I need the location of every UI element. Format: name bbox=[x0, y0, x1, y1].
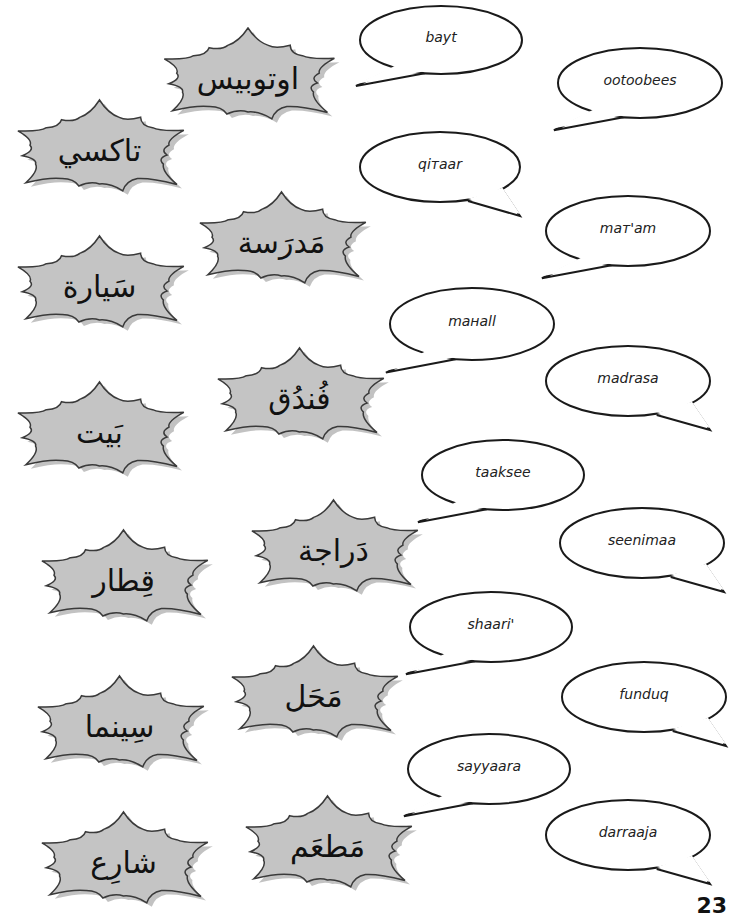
arabic-word: سَيارة bbox=[2, 236, 197, 336]
arabic-word-burst-madrasa: مَدرَسة bbox=[184, 192, 379, 292]
transliteration-text: sayyaara bbox=[404, 730, 574, 802]
speech-bubble-qitaar: qiтaar bbox=[356, 128, 524, 226]
transliteration-text: taaksee bbox=[418, 436, 588, 508]
arabic-word: مَحَل bbox=[216, 646, 411, 746]
arabic-word-burst-mataam: مَطعَم bbox=[230, 796, 425, 896]
speech-bubble-funduq: funduq bbox=[558, 658, 730, 756]
transliteration-text: bayt bbox=[356, 2, 526, 72]
transliteration-text: ootoobees bbox=[554, 44, 726, 116]
arabic-word: دَراجة bbox=[236, 500, 431, 600]
transliteration-text: maнall bbox=[386, 284, 558, 358]
speech-bubble-shaari: shaari' bbox=[406, 588, 576, 686]
arabic-word-burst-seenimaa: سِينما bbox=[22, 676, 217, 776]
arabic-word: تاكسي bbox=[2, 100, 197, 200]
transliteration-text: seenimaa bbox=[556, 504, 728, 576]
arabic-word-burst-qitaar: قِطار bbox=[26, 530, 221, 630]
arabic-word-burst-sayyara: سَيارة bbox=[2, 236, 197, 336]
arabic-word-burst-mahall: مَحَل bbox=[216, 646, 411, 746]
arabic-word: فُندُق bbox=[202, 348, 397, 448]
speech-bubble-mataam: maт'am bbox=[542, 192, 714, 290]
transliteration-text: funduq bbox=[558, 658, 730, 730]
arabic-word: شارِع bbox=[26, 812, 221, 912]
speech-bubble-madrasa: madrasa bbox=[542, 342, 714, 440]
speech-bubble-seenimaa: seenimaa bbox=[556, 504, 728, 602]
arabic-word-burst-funduq: فُندُق bbox=[202, 348, 397, 448]
transliteration-text: madrasa bbox=[542, 342, 714, 414]
arabic-word-burst-shaari: شارِع bbox=[26, 812, 221, 912]
transliteration-text: maт'am bbox=[542, 192, 714, 264]
arabic-word: سِينما bbox=[22, 676, 217, 776]
speech-bubble-darraaja: darraaja bbox=[542, 796, 714, 894]
arabic-word-burst-bayt: بَيت bbox=[2, 382, 197, 482]
arabic-word: قِطار bbox=[26, 530, 221, 630]
arabic-word: مَطعَم bbox=[230, 796, 425, 896]
page-number: 23 bbox=[696, 893, 727, 918]
arabic-word: بَيت bbox=[2, 382, 197, 482]
transliteration-text: darraaja bbox=[542, 796, 714, 868]
speech-bubble-mahall: maнall bbox=[386, 284, 558, 384]
transliteration-text: qiтaar bbox=[356, 128, 524, 200]
speech-bubble-bayt: bayt bbox=[356, 2, 526, 98]
transliteration-text: shaari' bbox=[406, 588, 576, 660]
arabic-word-burst-darraaja: دَراجة bbox=[236, 500, 431, 600]
speech-bubble-ootoobees: ootoobees bbox=[554, 44, 726, 142]
arabic-word-burst-taksee: تاكسي bbox=[2, 100, 197, 200]
arabic-word: مَدرَسة bbox=[184, 192, 379, 292]
